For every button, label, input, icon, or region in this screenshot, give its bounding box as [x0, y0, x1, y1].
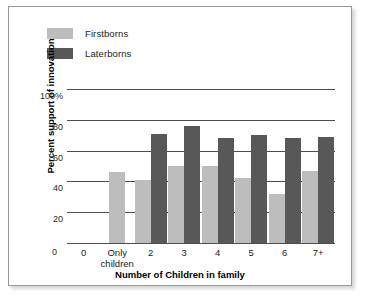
y-axis-title-wrap: Percent support of innovation [31, 97, 45, 247]
legend-item-laterborns: Laterborns [47, 45, 131, 61]
bar-group [134, 89, 168, 243]
bar-laterborns [251, 135, 267, 243]
bar-laterborns [318, 137, 334, 243]
bar-laterborns [285, 138, 301, 243]
y-tick-label-80: 80 [23, 122, 63, 132]
bar-group [67, 89, 101, 243]
bar-group [302, 89, 336, 243]
bar-firstborns [109, 172, 125, 243]
plot-area: 20406080100%0 [67, 89, 335, 244]
bar-group [268, 89, 302, 243]
bar-firstborns [202, 166, 218, 243]
legend-label-firstborns: Firstborns [85, 28, 128, 39]
bar-laterborns [184, 126, 200, 243]
x-tick-label: Only children [101, 248, 135, 269]
y-tick-label-20: 20 [23, 214, 63, 224]
y-tick-label-60: 60 [23, 153, 63, 163]
legend-label-laterborns: Laterborns [85, 48, 131, 59]
bar-firstborns [135, 180, 151, 243]
bar-firstborns [269, 194, 285, 243]
chart-legend: Firstborns Laterborns [47, 25, 131, 65]
x-tick-label: 7+ [302, 248, 336, 259]
x-tick-label: 4 [201, 248, 235, 259]
bar-firstborns [235, 178, 251, 243]
bar-laterborns [218, 138, 234, 243]
x-axis-line [67, 243, 335, 244]
legend-item-firstborns: Firstborns [47, 25, 131, 41]
x-tick-label: 0 [67, 248, 101, 259]
x-axis-title: Number of Children in family [9, 269, 351, 280]
y-tick-label-40: 40 [23, 183, 63, 193]
x-tick-label: 2 [134, 248, 168, 259]
y-tick-label-0: 0 [17, 247, 57, 257]
bar-group [168, 89, 202, 243]
x-tick-label: 6 [268, 248, 302, 259]
bar-group [235, 89, 269, 243]
y-tick-label-100: 100% [23, 91, 63, 101]
chart-figure: Firstborns Laterborns Percent support of… [8, 6, 352, 286]
bar-group [201, 89, 235, 243]
bar-laterborns [151, 134, 167, 243]
bar-firstborns [168, 166, 184, 243]
bar-series-container [67, 89, 335, 243]
x-tick-label: 3 [168, 248, 202, 259]
x-tick-label: 5 [235, 248, 269, 259]
bar-firstborns [302, 171, 318, 243]
bar-group [101, 89, 135, 243]
